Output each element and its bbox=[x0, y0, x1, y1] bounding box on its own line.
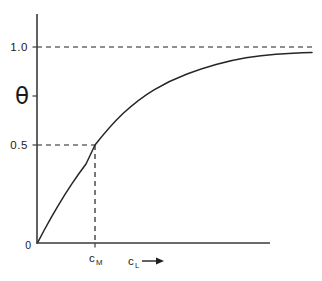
x-tick-label-cm: c M bbox=[89, 252, 103, 267]
y-tick-label-1.0: 1.0 bbox=[10, 41, 28, 53]
x-axis-arrow-icon bbox=[142, 258, 164, 265]
binding-isotherm-figure: 1.0 0.5 0 θ c M c L bbox=[0, 0, 322, 281]
x-axis-title-sub: L bbox=[135, 261, 140, 270]
x-axis-title-base: c bbox=[128, 255, 134, 267]
theta-curve bbox=[38, 53, 313, 243]
y-tick-label-0.5: 0.5 bbox=[10, 139, 28, 151]
x-axis-title: c L bbox=[128, 255, 164, 270]
plot-svg: 1.0 0.5 0 θ c M c L bbox=[0, 0, 322, 281]
x-tick-label-cm-base: c bbox=[89, 252, 95, 264]
origin-label: 0 bbox=[25, 239, 31, 251]
x-tick-label-cm-sub: M bbox=[96, 258, 103, 267]
y-axis-title-theta: θ bbox=[15, 83, 29, 109]
